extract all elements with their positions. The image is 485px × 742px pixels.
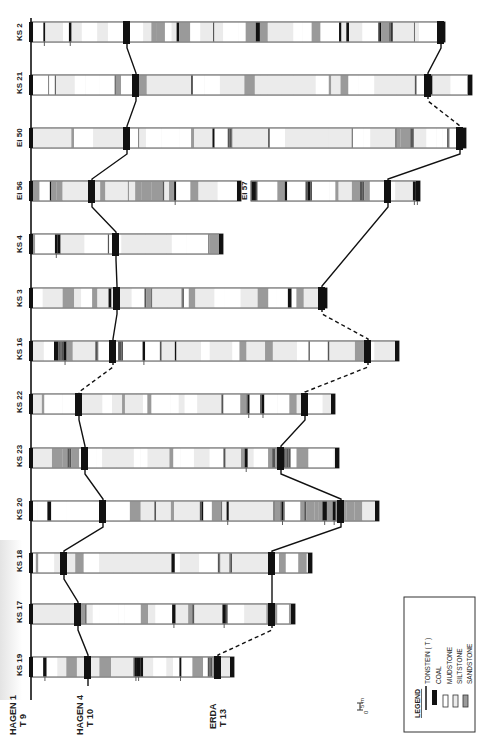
svg-text:KS 20: KS 20 (15, 497, 24, 520)
svg-text:KS 18: KS 18 (15, 549, 24, 572)
well-label: KS 18 (15, 549, 24, 572)
legend-mudstone-swatch (443, 695, 448, 707)
well-label: KS 17 (15, 600, 24, 623)
well-column-ks17 (29, 604, 295, 628)
svg-text:COAL: COAL (435, 666, 442, 684)
svg-text:KS 4: KS 4 (15, 235, 24, 253)
svg-text:T 10: T 10 (85, 709, 95, 727)
svg-text:KS 16: KS 16 (15, 337, 24, 360)
well-column-ei50 (29, 128, 466, 148)
svg-text:KS 22: KS 22 (15, 390, 24, 413)
legend-sandstone-swatch (463, 695, 468, 707)
well-label: Ei 50 (15, 128, 24, 147)
well-column-ei56 (29, 181, 241, 205)
svg-text:Ei 56: Ei 56 (15, 181, 24, 200)
well-label: KS 20 (15, 497, 24, 520)
correlation-diagram: KS 2KS 21Ei 50Ei 56Ei 57KS 4KS 3KS 16KS … (0, 0, 485, 742)
svg-text:TONSTEIN ( T ): TONSTEIN ( T ) (424, 638, 432, 684)
well-column-ks4 (29, 234, 223, 258)
svg-text:KS 19: KS 19 (15, 653, 24, 676)
well-label: Ei 56 (15, 181, 24, 200)
svg-text:0: 0 (363, 710, 369, 714)
svg-text:KS 2: KS 2 (15, 23, 24, 41)
well-column-ks2 (29, 22, 445, 46)
svg-text:HAGEN 4: HAGEN 4 (75, 695, 85, 735)
well-label: KS 16 (15, 337, 24, 360)
well-label: KS 22 (15, 390, 24, 413)
well-column-ks23 (29, 448, 339, 472)
legend-title: LEGEND (414, 689, 421, 718)
svg-text:SANDSTONE: SANDSTONE (466, 643, 473, 684)
well-column-ks21 (29, 75, 472, 95)
svg-text:Ei 50: Ei 50 (15, 128, 24, 147)
svg-text:Ei 57: Ei 57 (240, 181, 249, 200)
legend-siltstone-swatch (453, 695, 458, 707)
svg-text:SILTSTONE: SILTSTONE (456, 648, 463, 684)
legend-coal-swatch (432, 690, 437, 705)
legend: LEGEND TONSTEIN ( T ) COAL MUDSTONE SILT… (404, 597, 475, 732)
svg-text:KS 17: KS 17 (15, 600, 24, 623)
well-column-ks19 (29, 657, 234, 681)
well-column-ks20 (29, 501, 379, 525)
well-column-ei57 (251, 181, 420, 205)
svg-text:KS 23: KS 23 (15, 444, 24, 467)
svg-text:T 9: T 9 (18, 714, 28, 727)
svg-text:ERDA: ERDA (208, 703, 218, 729)
svg-text:T 13: T 13 (218, 709, 228, 727)
marker-label-erda: ERDA T 13 (208, 703, 228, 729)
svg-text:KS 21: KS 21 (15, 71, 24, 94)
svg-text:MUDSTONE: MUDSTONE (446, 646, 453, 684)
well-label: KS 3 (15, 289, 24, 307)
well-column-ks22 (29, 394, 335, 418)
well-column-ks3 (29, 288, 327, 308)
well-columns (29, 21, 472, 681)
well-label: KS 4 (15, 235, 24, 253)
scale-bar: 0 5 m (357, 698, 369, 714)
well-label: KS 19 (15, 653, 24, 676)
svg-text:HAGEN 1: HAGEN 1 (8, 695, 18, 735)
marker-label-hagen4: HAGEN 4 T 10 (75, 695, 95, 735)
datum-label-hagen1: HAGEN 1 T 9 (8, 695, 28, 735)
svg-text:KS 3: KS 3 (15, 289, 24, 307)
well-label: KS 23 (15, 444, 24, 467)
svg-text:5 m: 5 m (359, 698, 365, 708)
well-label: Ei 57 (240, 181, 249, 200)
svg-text:LEGEND: LEGEND (414, 689, 421, 718)
well-label: KS 21 (15, 71, 24, 94)
well-column-ks16 (29, 341, 399, 365)
well-label: KS 2 (15, 23, 24, 41)
